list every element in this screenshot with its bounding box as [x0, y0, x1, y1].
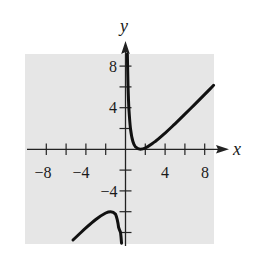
x-tick-label-4: 4 — [161, 164, 169, 181]
x-tick-label-neg4: −4 — [72, 164, 89, 181]
y-tick-label-4: 4 — [109, 99, 117, 116]
x-tick-label-8: 8 — [201, 164, 209, 181]
y-tick-label-8: 8 — [109, 58, 117, 75]
y-tick-label-neg4: −4 — [100, 183, 117, 200]
x-axis-label: x — [232, 139, 241, 159]
y-axis-label: y — [118, 16, 128, 36]
function-graph: −8 −4 4 8 8 4 −4 y x — [0, 0, 257, 261]
x-tick-label-neg8: −8 — [34, 164, 51, 181]
